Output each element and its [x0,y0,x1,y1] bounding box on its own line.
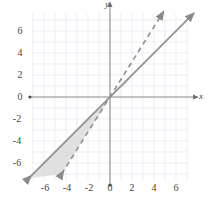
x-axis-label: x [199,92,203,101]
y-tick-label-6: 6 [12,26,28,36]
y-tick-label-0: 0 [12,92,28,102]
y-tick-label-minus-4: -4 [6,136,28,146]
x-tick-label-minus-2: -2 [78,183,100,193]
plot-canvas [0,0,211,199]
y-tick-label-2: 2 [12,70,28,80]
y-axis-label: y [105,0,109,9]
y-tick-label-minus-2: -2 [6,114,28,124]
x-axis-left-endpoint-dot [29,96,32,99]
x-tick-label-2: 2 [124,183,140,193]
coordinate-plane-figure: 6 4 2 0 -2 -4 -6 -6 -4 -2 0 2 4 6 x y [0,0,211,199]
x-tick-label-4: 4 [146,183,162,193]
x-tick-label-minus-4: -4 [56,183,78,193]
x-tick-label-6: 6 [168,183,184,193]
x-tick-label-minus-6: -6 [34,183,56,193]
y-tick-label-4: 4 [12,48,28,58]
y-tick-label-minus-6: -6 [6,158,28,168]
x-tick-label-0: 0 [102,183,118,193]
